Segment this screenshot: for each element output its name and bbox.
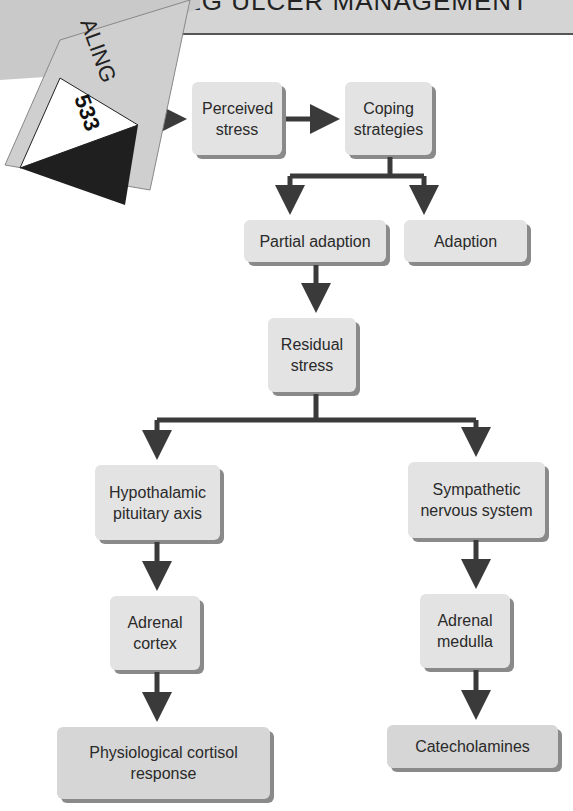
page-number-tab: ALING 533 xyxy=(0,0,200,210)
